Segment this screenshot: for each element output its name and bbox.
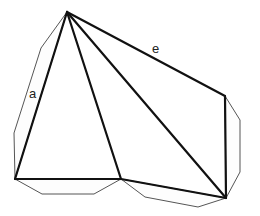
- edge-right: [225, 96, 226, 198]
- edge-a: [15, 12, 67, 179]
- edge-top-to-bottom-right: [67, 12, 226, 198]
- right-flap: [225, 96, 240, 198]
- bottom-left-flap: [15, 179, 121, 194]
- bottom-right-flap: [121, 179, 226, 207]
- label-a: a: [29, 86, 37, 101]
- net-diagram: a e: [0, 0, 260, 216]
- label-e: e: [152, 41, 159, 56]
